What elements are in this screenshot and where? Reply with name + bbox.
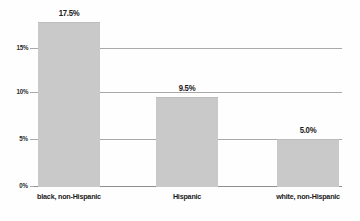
tick-mark-5 — [30, 139, 34, 140]
category-label-hispanic: Hispanic — [151, 192, 223, 201]
value-label-white-non-hispanic: 5.0% — [281, 125, 334, 135]
bar-black-non-hispanic[interactable] — [38, 22, 100, 187]
bar-hispanic[interactable] — [156, 97, 218, 187]
category-label-black-non-hispanic: black, non-Hispanic — [29, 192, 110, 201]
y-tick-label-10: 10% — [16, 88, 28, 96]
tick-mark-10 — [30, 92, 34, 93]
bar-chart: 15% 10% 5% 0% 17.5% 9.5% 5.0% black, non… — [0, 0, 360, 221]
y-tick-label-0: 0% — [19, 182, 28, 190]
value-label-black-non-hispanic: 17.5% — [42, 8, 95, 18]
bar-white-non-hispanic[interactable] — [277, 139, 339, 187]
y-tick-label-15: 15% — [16, 44, 28, 52]
plot-area: 15% 10% 5% 0% 17.5% 9.5% 5.0% black, non… — [0, 0, 360, 221]
category-label-white-non-hispanic: white, non-Hispanic — [268, 192, 349, 201]
tick-mark-0 — [30, 186, 34, 187]
value-label-hispanic: 9.5% — [160, 83, 213, 93]
tick-mark-15 — [30, 48, 34, 49]
y-tick-label-5: 5% — [19, 135, 28, 143]
